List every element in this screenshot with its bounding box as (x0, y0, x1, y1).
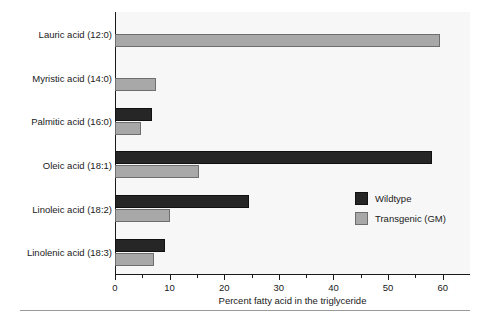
x-minor-tick-mark (361, 275, 362, 278)
category-label: Oleic acid (18:1) (0, 159, 112, 170)
x-tick-mark (443, 275, 444, 280)
bar-transgenic (115, 253, 154, 266)
x-tick-mark (115, 275, 116, 280)
bar-transgenic (115, 165, 199, 178)
category-labels: Lauric acid (12:0)Myristic acid (14:0)Pa… (0, 0, 112, 318)
category-label: Linoleic acid (18:2) (0, 203, 112, 214)
x-minor-tick-mark (415, 275, 416, 278)
category-label: Palmitic acid (16:0) (0, 116, 112, 127)
category-label: Lauric acid (12:0) (0, 28, 112, 39)
fatty-acid-bar-chart: 0102030405060 Lauric acid (12:0)Myristic… (0, 0, 485, 318)
x-tick-mark (224, 275, 225, 280)
y-axis-line (115, 12, 116, 275)
bar-wildtype (115, 151, 432, 164)
plot-area (115, 12, 470, 275)
category-label: Linolenic acid (18:3) (0, 247, 112, 258)
x-tick-mark (333, 275, 334, 280)
legend-label-wildtype: Wildtype (375, 193, 411, 204)
x-axis-line (115, 274, 470, 275)
legend-swatch-wildtype-icon (355, 192, 368, 205)
x-minor-tick-mark (306, 275, 307, 278)
bar-transgenic (115, 34, 440, 47)
x-minor-tick-mark (197, 275, 198, 278)
legend-item-wildtype: Wildtype (355, 192, 446, 205)
chart-legend: Wildtype Transgenic (GM) (355, 192, 446, 232)
bar-wildtype (115, 108, 152, 121)
x-tick-label: 50 (383, 282, 394, 293)
footer-divider (20, 310, 470, 311)
x-tick-label: 10 (164, 282, 175, 293)
bar-transgenic (115, 78, 156, 91)
category-label: Myristic acid (14:0) (0, 72, 112, 83)
x-tick-label: 20 (219, 282, 230, 293)
x-tick-mark (279, 275, 280, 280)
bar-transgenic (115, 209, 170, 222)
x-tick-label: 30 (274, 282, 285, 293)
x-tick-mark (170, 275, 171, 280)
x-tick-label: 0 (112, 282, 117, 293)
x-tick-label: 60 (437, 282, 448, 293)
legend-label-transgenic: Transgenic (GM) (375, 213, 446, 224)
legend-swatch-transgenic-icon (355, 212, 368, 225)
x-tick-mark (388, 275, 389, 280)
x-axis-title: Percent fatty acid in the triglyceride (115, 295, 470, 306)
bar-transgenic (115, 122, 141, 135)
legend-item-transgenic: Transgenic (GM) (355, 212, 446, 225)
x-minor-tick-mark (142, 275, 143, 278)
x-minor-tick-mark (252, 275, 253, 278)
bar-wildtype (115, 195, 249, 208)
bar-wildtype (115, 239, 165, 252)
x-tick-label: 40 (328, 282, 339, 293)
